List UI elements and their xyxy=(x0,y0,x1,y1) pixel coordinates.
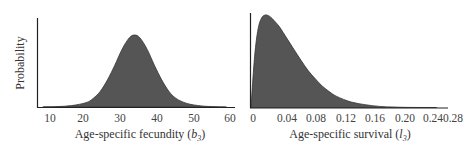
fecundity-x-ticks: 10 20 30 40 50 60 xyxy=(44,112,236,124)
probability-y-axis-label: Probability xyxy=(13,36,27,89)
fecundity-x-axis-label: Age-specific fecundity (b3) xyxy=(75,127,206,143)
tick-label: 0.28 xyxy=(443,112,463,124)
tick-label: 10 xyxy=(44,112,56,124)
tick-label: 0 xyxy=(250,112,256,124)
survival-x-ticks: 0 0.04 0.08 0.12 0.16 0.20 0.24 0.28 xyxy=(250,112,463,124)
survival-distribution-area xyxy=(251,15,437,108)
survival-x-axis-label: Age-specific survival (l3) xyxy=(289,127,410,143)
tick-label: 0.04 xyxy=(277,112,297,124)
survival-chart: 0 0.04 0.08 0.12 0.16 0.20 0.24 0.28 Age… xyxy=(250,13,463,143)
figure: 10 20 30 40 50 60 Age-specific fecundity… xyxy=(0,0,468,157)
fecundity-distribution-area xyxy=(43,35,227,107)
tick-label: 30 xyxy=(114,112,126,124)
tick-label: 60 xyxy=(224,112,236,124)
tick-label: 20 xyxy=(77,112,89,124)
tick-label: 0.16 xyxy=(365,112,385,124)
tick-label: 50 xyxy=(188,112,200,124)
fecundity-chart: 10 20 30 40 50 60 Age-specific fecundity… xyxy=(13,18,236,143)
tick-label: 0.20 xyxy=(395,112,415,124)
tick-label: 0.08 xyxy=(306,112,326,124)
tick-label: 0.24 xyxy=(423,112,443,124)
tick-label: 40 xyxy=(151,112,163,124)
tick-label: 0.12 xyxy=(336,112,356,124)
